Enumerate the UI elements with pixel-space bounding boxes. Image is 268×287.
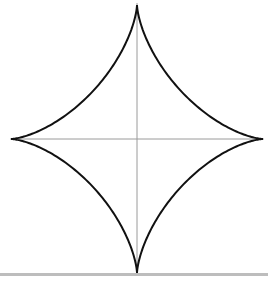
divider-bar xyxy=(0,273,268,276)
astroid-figure xyxy=(0,0,268,287)
